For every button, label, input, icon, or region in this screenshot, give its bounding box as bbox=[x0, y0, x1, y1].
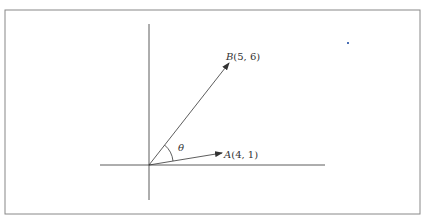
diagram-border bbox=[5, 10, 420, 214]
point-a-label: A(4, 1) bbox=[223, 149, 258, 160]
theta-label: θ bbox=[178, 142, 184, 153]
stray-dot bbox=[347, 42, 349, 44]
diagram-frame: θ B(5, 6) A(4, 1) bbox=[0, 0, 424, 222]
point-b-label: B(5, 6) bbox=[225, 51, 260, 62]
